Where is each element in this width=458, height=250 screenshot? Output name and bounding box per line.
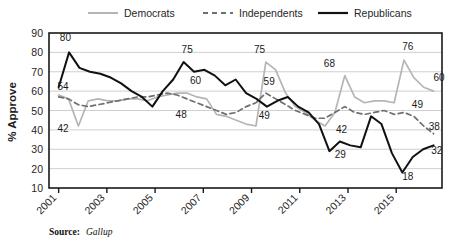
x-tick-2013: 2013 (323, 191, 348, 216)
y-tick-40: 40 (31, 124, 43, 136)
point-label-75: 75 (254, 44, 266, 55)
y-tick-90: 90 (31, 27, 43, 39)
data-series-layer (59, 52, 434, 172)
point-label-49: 49 (412, 99, 424, 110)
x-tick-2007: 2007 (178, 191, 203, 216)
point-label-48: 48 (176, 109, 188, 120)
y-tick-70: 70 (31, 66, 43, 78)
data-point-labels: 805442486075755949684229187660493832 (57, 32, 445, 183)
point-label-29: 29 (335, 149, 347, 160)
point-label-59: 59 (264, 76, 276, 87)
x-tick-2001: 2001 (34, 191, 59, 216)
legend-label-republicans: Republicans (354, 7, 412, 19)
y-tick-80: 80 (31, 46, 43, 58)
legend-label-democrats: Democrats (124, 7, 175, 19)
point-label-68: 68 (324, 58, 336, 69)
x-tick-2015: 2015 (371, 191, 396, 216)
approval-line-chart: Democrats Independents Republicans % App… (0, 0, 458, 250)
point-label-42: 42 (336, 124, 348, 135)
x-axis-tick-labels: 20012003200520072009201120132015 (34, 188, 397, 216)
legend-label-independents: Independents (239, 7, 303, 19)
x-tick-2005: 2005 (130, 191, 155, 216)
point-label-18: 18 (402, 171, 414, 182)
source-prefix: Source: (49, 227, 80, 237)
point-label-38: 38 (429, 121, 441, 132)
source-name: Gallup (86, 227, 113, 237)
y-tick-50: 50 (31, 105, 43, 117)
x-tick-2003: 2003 (82, 191, 107, 216)
point-label-60: 60 (190, 75, 202, 86)
point-label-54: 54 (57, 81, 69, 92)
y-axis-tick-labels: 908070605040302010 (31, 27, 43, 194)
point-label-42: 42 (57, 123, 69, 134)
x-tick-2011: 2011 (275, 191, 300, 216)
point-label-76: 76 (402, 41, 414, 52)
y-tick-60: 60 (31, 85, 43, 97)
y-axis-title: % Approve (6, 82, 18, 142)
point-label-49: 49 (259, 110, 271, 121)
legend: Democrats Independents Republicans (88, 7, 412, 19)
point-label-80: 80 (60, 32, 72, 43)
y-tick-10: 10 (31, 182, 43, 194)
y-tick-30: 30 (31, 143, 43, 155)
point-label-32: 32 (431, 145, 443, 156)
series-line-independents (59, 93, 434, 134)
y-tick-20: 20 (31, 163, 43, 175)
point-label-60: 60 (434, 72, 446, 83)
point-label-75: 75 (182, 44, 194, 55)
x-tick-2009: 2009 (227, 191, 252, 216)
